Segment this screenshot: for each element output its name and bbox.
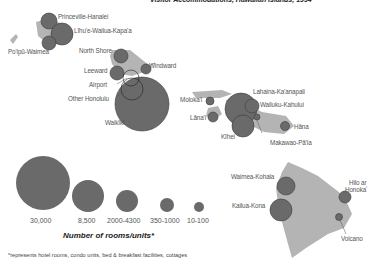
bubble-lanai	[208, 112, 218, 122]
bubble-kihei	[232, 115, 254, 137]
label-lanai: Lāna'i	[190, 115, 206, 121]
label-airport: Airport	[89, 82, 107, 88]
legend-bubble-10-100	[194, 202, 204, 212]
label-windward: Windward	[149, 63, 176, 69]
legend-label-2000-4300: 2000-4300	[107, 217, 140, 224]
label-poipu: Po'ipū-Waimea	[8, 49, 49, 55]
bubble-makawao	[254, 114, 260, 120]
bubble-map	[0, 0, 370, 266]
label-north-shore: North Shore	[79, 48, 112, 54]
legend-bubble-8500	[72, 180, 104, 212]
legend-bubbles	[16, 156, 204, 212]
label-lahaina: Lahaina-Ka'anapali	[253, 89, 305, 95]
island-niihau	[10, 34, 18, 44]
bubble-leeward	[110, 66, 124, 80]
label-waimea-kohala: Waimea-Kohala	[231, 174, 274, 180]
label-volcano: Volcano	[341, 236, 363, 242]
label-princeville: Princeville-Hanalei	[58, 14, 108, 20]
islands	[10, 18, 352, 258]
footnote: *represents hotel rooms, condo units, be…	[8, 252, 187, 258]
label-hana: Hāna	[294, 124, 309, 130]
bubble-kona	[270, 199, 292, 221]
label-kailua-kona: Kailua-Kona	[232, 203, 265, 209]
label-honokaa: Honokaʻ	[345, 187, 367, 193]
label-molokai: Moloka'i	[180, 97, 202, 103]
bubble-molokai	[206, 97, 214, 105]
bubble-waimea	[277, 177, 295, 195]
label-lihue: Līhu'e-Wailua-Kapa'a	[74, 28, 132, 34]
legend-bubble-2000-4300	[116, 190, 138, 212]
legend-title: Number of rooms/units*	[63, 231, 154, 240]
legend-label-10-100: 10-100	[187, 217, 209, 224]
legend-bubble-350-1000	[160, 198, 174, 212]
label-makawao: Makawao-Pā'ia	[270, 140, 312, 146]
legend-label-350-1000: 350-1000	[150, 217, 180, 224]
bubble-hana	[281, 122, 290, 131]
label-waikiki: Waikīkī	[105, 120, 125, 126]
legend-label-30000: 30,000	[30, 217, 51, 224]
label-kihei: Kīhei	[221, 134, 235, 140]
label-wailuku: Wailuku-Kahului	[260, 102, 304, 108]
legend-bubble-30000	[16, 156, 70, 210]
label-other-honolulu: Other Honolulu	[68, 96, 109, 102]
label-leeward: Leeward	[84, 68, 107, 74]
legend-label-8500: 8,500	[78, 217, 96, 224]
bubble-north-shore	[114, 49, 128, 63]
bubble-wailuku	[245, 99, 259, 113]
bubble-volcano	[336, 214, 343, 221]
